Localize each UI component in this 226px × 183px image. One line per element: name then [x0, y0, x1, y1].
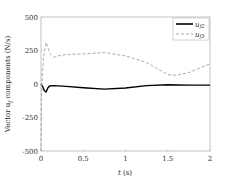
- x-tick-label: 1.5: [162, 155, 173, 163]
- y-tick-label: -250: [22, 114, 38, 122]
- line-chart: 00.511.52 5002500-250-500 uf2 uf3 t (s) …: [0, 0, 226, 183]
- y-tick-label: 500: [25, 14, 38, 22]
- x-tick-label: 2: [208, 155, 212, 163]
- x-tick-label: 0: [39, 155, 43, 163]
- y-tick-label: 250: [25, 47, 38, 55]
- y-axis-ticks: 5002500-250-500: [22, 14, 43, 156]
- x-axis-label: t (s): [118, 169, 132, 177]
- x-tick-label: 1: [123, 155, 127, 163]
- y-tick-label: 0: [34, 81, 38, 89]
- y-axis-label: Vector uf components (N/s): [4, 36, 14, 134]
- y-tick-label: -500: [22, 148, 38, 156]
- legend: uf2 uf3: [173, 18, 209, 40]
- x-tick-label: 0.5: [78, 155, 89, 163]
